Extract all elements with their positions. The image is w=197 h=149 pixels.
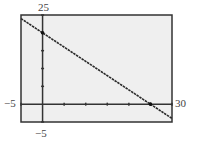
intercept-point bbox=[149, 102, 153, 106]
ymin-label: −5 bbox=[35, 128, 47, 139]
graph-canvas bbox=[0, 0, 197, 149]
xmax-label: 30 bbox=[175, 98, 186, 109]
ymax-label: 25 bbox=[38, 2, 49, 13]
intercept-point bbox=[41, 31, 45, 35]
xmin-label: −5 bbox=[4, 98, 16, 109]
